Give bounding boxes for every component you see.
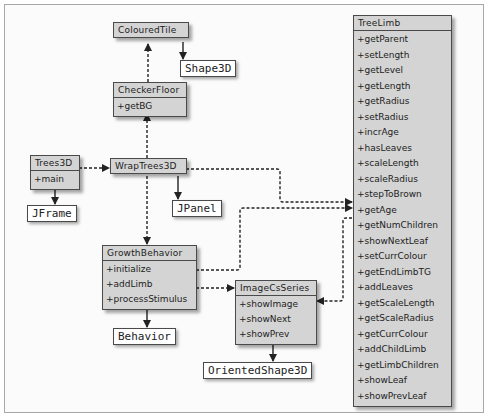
- library-class-jframe[interactable]: JFrame: [27, 205, 77, 222]
- link-treelimb-imagecsseries: [317, 218, 352, 301]
- class-name: TreeLimb: [354, 16, 451, 31]
- class-image-cs-series[interactable]: ImageCsSeries +showImage +showNext +show…: [235, 280, 317, 345]
- method-addlimb: +addLimb: [106, 277, 193, 292]
- method-getlevel: +getLevel: [357, 63, 448, 79]
- method-addleaves: +addLeaves: [357, 280, 448, 296]
- method-incrage: +incrAge: [357, 125, 448, 141]
- method-initialize: +initialize: [106, 262, 193, 277]
- method-scalelength: +scaleLength: [357, 156, 448, 172]
- method-getradius: +getRadius: [357, 94, 448, 110]
- library-class-oriented-shape3d[interactable]: OrientedShape3D: [203, 362, 312, 379]
- method-steptobrown: +stepToBrown: [357, 187, 448, 203]
- class-name: CheckerFloor: [114, 83, 186, 98]
- class-wrap-trees3d[interactable]: WrapTrees3D: [110, 158, 187, 174]
- method-shownext: +showNext: [239, 312, 313, 327]
- class-growth-behavior[interactable]: GrowthBehavior +initialize +addLimb +pro…: [102, 245, 197, 310]
- link-growthbehavior-treelimb: [196, 208, 352, 270]
- method-showimage: +showImage: [239, 297, 313, 312]
- class-name: ImageCsSeries: [236, 281, 316, 296]
- class-tree-limb[interactable]: TreeLimb +getParent +setLength +getLevel…: [353, 15, 452, 407]
- method-getendlimbtg: +getEndLimbTG: [357, 265, 448, 281]
- class-checker-floor[interactable]: CheckerFloor +getBG: [113, 82, 187, 117]
- method-setlength: +setLength: [357, 48, 448, 64]
- method-getcurrcolour: +getCurrColour: [357, 327, 448, 343]
- method-addchildlimb: +addChildLimb: [357, 342, 448, 358]
- method-setradius: +setRadius: [357, 110, 448, 126]
- class-name: ColouredTile: [114, 23, 188, 37]
- method-getnumchildren: +getNumChildren: [357, 218, 448, 234]
- library-class-jpanel[interactable]: JPanel: [172, 200, 222, 217]
- method-setcurrcolour: +setCurrColour: [357, 249, 448, 265]
- method-getage: +getAge: [357, 203, 448, 219]
- method-showprevleaf: +showPrevLeaf: [357, 389, 448, 405]
- library-class-behavior[interactable]: Behavior: [113, 328, 176, 345]
- method-scaleradius: +scaleRadius: [357, 172, 448, 188]
- method-main: +main: [34, 172, 76, 187]
- method-getlimbchildren: +getLimbChildren: [357, 358, 448, 374]
- library-class-shape3d[interactable]: Shape3D: [180, 60, 236, 77]
- class-name: WrapTrees3D: [111, 159, 186, 173]
- link-wraptrees-treelimb: [186, 169, 352, 202]
- method-getscaleradius: +getScaleRadius: [357, 311, 448, 327]
- method-processstimulus: +processStimulus: [106, 292, 193, 307]
- method-getscalelength: +getScaleLength: [357, 296, 448, 312]
- method-getparent: +getParent: [357, 32, 448, 48]
- class-trees3d[interactable]: Trees3D +main: [30, 155, 80, 190]
- class-coloured-tile[interactable]: ColouredTile: [113, 22, 189, 38]
- class-name: GrowthBehavior: [103, 246, 196, 261]
- method-getbg: +getBG: [117, 99, 183, 114]
- class-name: Trees3D: [31, 156, 79, 171]
- method-hasleaves: +hasLeaves: [357, 141, 448, 157]
- method-showleaf: +showLeaf: [357, 373, 448, 389]
- method-getlength: +getLength: [357, 79, 448, 95]
- method-shownextleaf: +showNextLeaf: [357, 234, 448, 250]
- method-showprev: +showPrev: [239, 327, 313, 342]
